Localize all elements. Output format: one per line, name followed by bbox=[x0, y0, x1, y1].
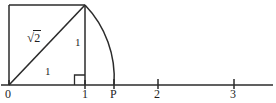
vertical-side-length-label: 1 bbox=[75, 37, 81, 48]
tick-label-p: P bbox=[110, 88, 117, 100]
tick-label-2: 2 bbox=[154, 88, 160, 100]
hypotenuse-length-label: √2 bbox=[27, 31, 41, 44]
tick-label-0: 0 bbox=[5, 88, 11, 100]
square-root-two-construction-figure: 0 1 P 2 3 √2 1 1 bbox=[0, 0, 276, 103]
right-angle-marker bbox=[75, 75, 86, 85]
horizontal-side-length-label: 1 bbox=[45, 66, 51, 77]
radicand: 2 bbox=[33, 30, 41, 45]
tick-label-1: 1 bbox=[82, 88, 88, 100]
tick-label-3: 3 bbox=[230, 88, 236, 100]
compass-arc bbox=[85, 5, 114, 85]
